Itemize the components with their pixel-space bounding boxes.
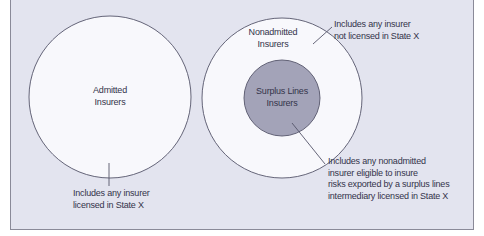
surplus-lines-note-line1: Includes any nonadmitted: [328, 156, 449, 168]
surplus-lines-label-line1: Surplus Lines: [244, 86, 320, 98]
admitted-label-line2: Insurers: [80, 97, 140, 109]
admitted-label-line1: Admitted: [80, 85, 140, 97]
surplus-lines-note-line4: intermediary licensed in State X: [328, 191, 449, 203]
nonadmitted-note-line1: Includes any insurer: [334, 19, 419, 31]
admitted-label: Admitted Insurers: [80, 85, 140, 108]
admitted-note-line1: Includes any insurer: [73, 188, 150, 200]
nonadmitted-note: Includes any insurer not licensed in Sta…: [334, 19, 419, 42]
admitted-note: Includes any insurer licensed in State X: [73, 188, 150, 211]
nonadmitted-label-line1: Nonadmitted: [240, 27, 306, 39]
admitted-note-line2: licensed in State X: [73, 200, 150, 212]
surplus-lines-note-line3: risks exported by a surplus lines: [328, 179, 449, 191]
surplus-lines-note: Includes any nonadmitted insurer eligibl…: [328, 156, 449, 202]
surplus-lines-label-line2: Insurers: [244, 98, 320, 110]
nonadmitted-label-line2: Insurers: [240, 39, 306, 51]
nonadmitted-label: Nonadmitted Insurers: [240, 27, 306, 50]
nonadmitted-note-line2: not licensed in State X: [334, 31, 419, 43]
surplus-lines-label: Surplus Lines Insurers: [244, 86, 320, 109]
surplus-lines-note-line2: insurer eligible to insure: [328, 168, 449, 180]
